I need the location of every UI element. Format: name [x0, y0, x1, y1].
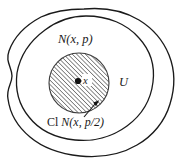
closed-ball-label-prefix: Cl	[47, 115, 58, 129]
diagram-canvas	[0, 0, 179, 164]
topology-diagram-figure: N(x, p) U x Cl N(x, p/2)	[0, 0, 179, 164]
open-ball-label: N(x, p)	[58, 33, 93, 46]
outer-region-label-U: U	[119, 76, 128, 89]
center-point-label-x: x	[83, 76, 88, 87]
closed-ball-label: Cl N(x, p/2)	[47, 116, 104, 128]
center-point-dot-x	[75, 78, 81, 84]
closed-ball-label-body: N(x, p/2)	[61, 115, 104, 129]
